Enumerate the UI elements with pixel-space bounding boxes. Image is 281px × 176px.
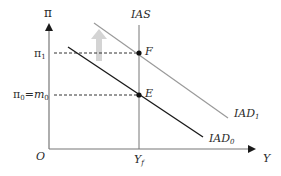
yf-label: Yf: [134, 153, 145, 167]
point-f-label: F: [144, 45, 153, 58]
origin-label: O: [36, 150, 45, 163]
point-e-label: E: [144, 87, 153, 100]
point-e: [136, 92, 141, 97]
iad1-label: IAD1: [233, 107, 260, 121]
point-f: [136, 50, 141, 55]
iad0-curve: [68, 47, 203, 137]
x-axis-end-label: Y: [263, 152, 272, 165]
pi0-m0-label: π0=m0: [13, 88, 49, 102]
pi1-label: π1: [34, 47, 46, 61]
shift-up-arrow-icon: [91, 29, 107, 61]
ias-label: IAS: [130, 8, 151, 21]
y-axis-label: π: [44, 6, 52, 20]
iad1-curve: [94, 23, 228, 118]
iad0-label: IAD0: [208, 132, 235, 146]
ias-iad-diagram: π Y O IAS F E π1 π0=m0 IAD1 IAD0 Yf Y: [0, 0, 281, 176]
